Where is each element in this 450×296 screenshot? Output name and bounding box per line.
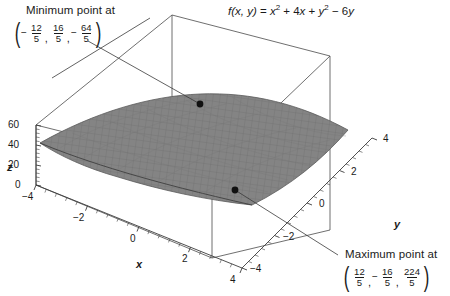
min-coord-1-den: 5 — [54, 33, 63, 44]
equation-plus: + — [309, 5, 316, 17]
leader-line-minimum — [88, 41, 200, 104]
x-tick-0: 0 — [130, 233, 136, 244]
max-coord-0-num: 12 — [352, 267, 367, 277]
equation-exp-2a: 2 — [276, 3, 280, 12]
close-paren: ) — [95, 22, 101, 45]
x-tick-4: 4 — [230, 274, 236, 285]
x-tick--4: −4 — [22, 191, 33, 202]
surface-mesh — [40, 94, 348, 205]
min-coord-2-num: 64 — [79, 23, 94, 33]
z-tick-40: 40 — [8, 139, 19, 150]
z-tick-20: 20 — [8, 159, 19, 170]
x-tick-2: 2 — [182, 253, 188, 264]
function-equation: f(x, y) = x2 + 4x + y2 − 6y — [228, 3, 354, 17]
equation-plus-4: + 4 — [283, 5, 299, 17]
min-coord-0-sign: − — [21, 28, 27, 38]
min-coord-0-num: 12 — [29, 23, 44, 33]
open-paren: ( — [344, 266, 350, 289]
max-coord-1-sign: − — [372, 272, 378, 282]
equation-minus-6: − 6 — [332, 5, 348, 17]
z-tick-0: 0 — [15, 179, 21, 190]
max-coord-2-num: 224 — [402, 267, 422, 277]
comma-1: , — [368, 277, 371, 289]
equation-term-4x: x — [300, 5, 306, 17]
close-paren: ) — [424, 266, 430, 289]
comma-2: , — [67, 33, 70, 45]
y-axis-label: y — [394, 218, 400, 230]
maximum-point-coordinates: ( 12 5 , − 16 5 , 224 — [343, 266, 430, 289]
maximum-callout-label: Maximum point at — [345, 248, 437, 260]
minimum-callout-label: Minimum point at — [26, 4, 115, 16]
max-coord-0-den: 5 — [355, 277, 364, 288]
min-coord-2-den: 5 — [82, 33, 91, 44]
z-axis — [36, 125, 41, 186]
equation-args: (x, y) — [231, 5, 257, 17]
equation-equals: = — [260, 5, 267, 17]
max-coord-2-den: 5 — [407, 277, 416, 288]
figure-canvas: f(x, y) = x2 + 4x + y2 − 6y Minimum poin… — [0, 0, 450, 296]
y-tick-4: 4 — [383, 133, 389, 144]
open-paren: ( — [15, 22, 21, 45]
min-coord-0-den: 5 — [32, 33, 41, 44]
equation-exp-2b: 2 — [324, 3, 328, 12]
min-coord-1-num: 16 — [51, 23, 66, 33]
x-tick--2: −2 — [73, 212, 84, 223]
x-axis-label: x — [136, 258, 142, 270]
comma-2: , — [396, 277, 399, 289]
minimum-point-marker[interactable] — [197, 101, 204, 108]
max-coord-1-den: 5 — [383, 277, 392, 288]
minimum-point-coordinates: ( − 12 5 , 16 5 , − 64 — [14, 22, 102, 45]
maximum-point-marker[interactable] — [232, 187, 239, 194]
y-tick-0: 0 — [319, 198, 325, 209]
equation-term-6y: y — [348, 5, 354, 17]
y-tick--4: −4 — [250, 263, 261, 274]
z-tick-60: 60 — [8, 119, 19, 130]
y-tick-2: 2 — [351, 166, 357, 177]
min-coord-2-sign: − — [71, 28, 77, 38]
comma-1: , — [45, 33, 48, 45]
max-coord-1-num: 16 — [380, 267, 395, 277]
y-tick--2: −2 — [283, 231, 294, 242]
